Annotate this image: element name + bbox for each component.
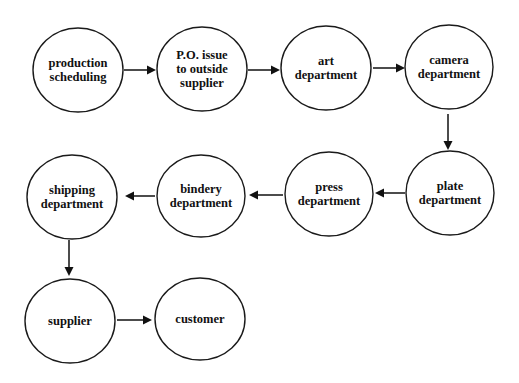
arrow-supplier-to-customer (117, 316, 152, 325)
node-label: press (315, 180, 343, 194)
node-label: supplier (48, 314, 92, 328)
node-label: department (295, 68, 358, 82)
arrow-production-scheduling-to-po-issue (124, 66, 156, 75)
arrowhead-icon (444, 141, 453, 150)
node-label: shipping (49, 183, 96, 197)
node-label: department (419, 193, 482, 207)
arrowhead-icon (147, 66, 156, 75)
node-art-department: artdepartment (281, 26, 371, 110)
node-label: production (49, 56, 108, 70)
node-plate-department: platedepartment (406, 151, 494, 235)
node-label: bindery (180, 182, 222, 196)
arrow-press-department-to-bindery-department (249, 191, 283, 200)
arrowhead-icon (143, 316, 152, 325)
arrowhead-icon (396, 64, 405, 73)
node-label: department (298, 194, 361, 208)
node-label: scheduling (50, 70, 108, 84)
node-bindery-department: binderydepartment (157, 155, 245, 237)
flowchart-canvas: productionschedulingP.O. issueto outside… (0, 0, 519, 383)
arrowhead-icon (65, 267, 74, 276)
arrow-plate-department-to-press-department (375, 189, 405, 198)
node-label: art (318, 54, 335, 68)
node-shipping-department: shippingdepartment (27, 155, 117, 239)
edges-layer (65, 64, 453, 325)
node-label: P.O. issue (176, 48, 228, 62)
arrow-po-issue-to-art-department (248, 66, 280, 75)
arrowhead-icon (271, 66, 280, 75)
node-supplier: supplier (25, 279, 115, 363)
arrow-camera-department-to-plate-department (444, 114, 453, 150)
arrow-bindery-department-to-shipping-department (125, 192, 155, 201)
node-label: supplier (180, 76, 224, 90)
node-label: department (41, 197, 104, 211)
node-label: department (170, 196, 233, 210)
node-camera-department: cameradepartment (405, 25, 493, 109)
arrow-art-department-to-camera-department (373, 64, 405, 73)
arrowhead-icon (249, 191, 258, 200)
node-po-issue: P.O. issueto outsidesupplier (157, 27, 247, 111)
node-label: to outside (176, 62, 228, 76)
node-customer: customer (155, 278, 245, 360)
nodes-layer: productionschedulingP.O. issueto outside… (25, 25, 494, 363)
arrowhead-icon (125, 192, 134, 201)
node-press-department: pressdepartment (285, 152, 373, 236)
arrowhead-icon (375, 189, 384, 198)
node-production-scheduling: productionscheduling (33, 28, 123, 112)
node-label: customer (175, 312, 225, 326)
node-label: department (418, 67, 481, 81)
node-label: plate (437, 179, 464, 193)
arrow-shipping-department-to-supplier (65, 240, 74, 276)
node-label: camera (429, 53, 469, 67)
